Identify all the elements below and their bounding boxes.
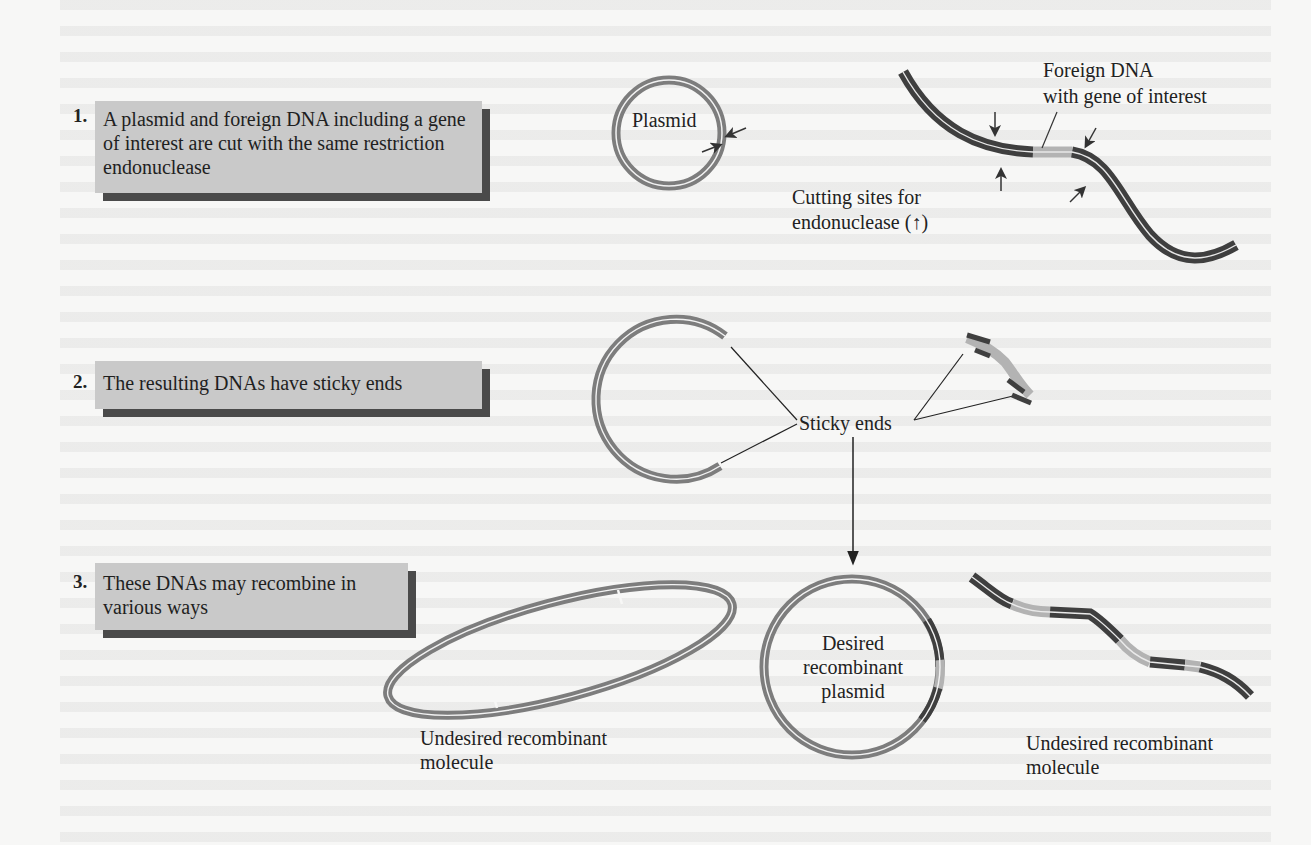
desired-plasmid-label-line2: recombinant [795, 655, 911, 679]
desired-plasmid-label-line3: plasmid [795, 679, 911, 703]
undesired-ellipse-molecule [376, 558, 745, 743]
cutting-sites-label-line2: endonuclease (↑) [792, 210, 928, 234]
foreign-dna-label-line2: with gene of interest [1043, 84, 1207, 108]
undesired-linear-molecule [972, 577, 1250, 696]
cutting-sites-label-line1: Cutting sites for [792, 185, 921, 209]
sticky-ends-pointers [721, 347, 1013, 463]
cut-gene-fragment [967, 335, 1031, 403]
undesired-right-label-line2: molecule [1026, 755, 1099, 779]
undesired-left-label-line1: Undesired recombinant [420, 726, 607, 750]
cut-plasmid [596, 319, 725, 479]
desired-plasmid-label-line1: Desired [795, 631, 911, 655]
gene-of-interest-pointer [1042, 112, 1057, 148]
plasmid-label: Plasmid [632, 108, 696, 132]
plasmid-intact [616, 80, 722, 186]
foreign-dna-label-line1: Foreign DNA [1043, 58, 1154, 82]
undesired-right-label-line1: Undesired recombinant [1026, 731, 1213, 755]
undesired-left-label-line2: molecule [420, 750, 493, 774]
sticky-ends-label: Sticky ends [799, 411, 892, 435]
